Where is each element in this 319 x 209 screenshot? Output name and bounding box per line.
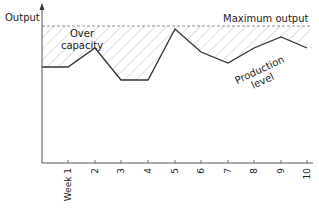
over-capacity-label: capacity [61, 40, 103, 51]
tick-label: 2 [90, 168, 100, 174]
tick-label: 5 [170, 168, 180, 174]
y-axis-arrow-icon [40, 3, 45, 10]
tick-label: Week 1 [63, 168, 73, 201]
tick-label: 10 [302, 168, 312, 180]
capacity-chart: Week 1 2 3 4 5 6 7 8 9 10 Output Maximum… [0, 0, 319, 209]
tick-label: 3 [116, 168, 126, 174]
over-capacity-label: Over [70, 28, 95, 39]
maximum-output-label: Maximum output [223, 13, 309, 24]
tick-label: 7 [223, 168, 233, 174]
tick-label: 9 [276, 168, 286, 174]
tick-label: 4 [143, 168, 153, 174]
tick-label: 8 [249, 168, 259, 174]
y-axis-label: Output [5, 12, 40, 23]
tick-label: 6 [196, 168, 206, 174]
